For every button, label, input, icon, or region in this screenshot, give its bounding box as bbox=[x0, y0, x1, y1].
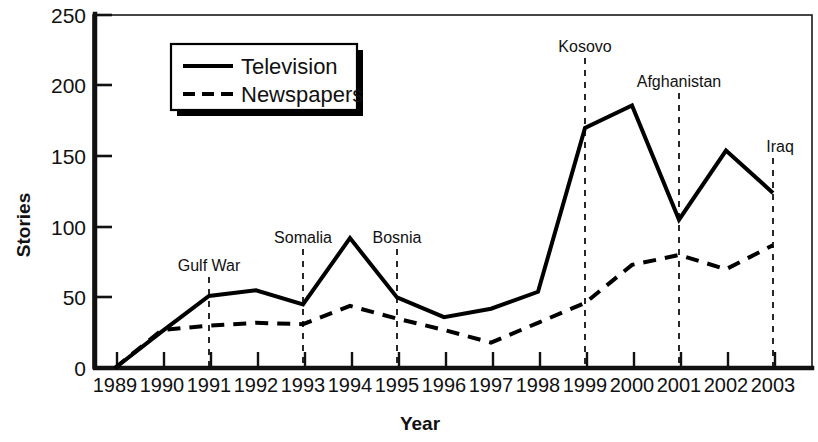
x-tick-label-2001: 2001 bbox=[657, 374, 702, 396]
x-tick-label-2000: 2000 bbox=[610, 374, 655, 396]
y-tick-labels: 250 200 150 100 50 0 bbox=[51, 4, 86, 380]
y-tick-label-200: 200 bbox=[51, 74, 86, 97]
x-tick-label-1999: 1999 bbox=[563, 374, 608, 396]
annotation-label-afghanistan: Afghanistan bbox=[637, 73, 722, 90]
x-tick-labels: 1989 1990 1991 1992 1993 1994 1995 1996 … bbox=[93, 374, 796, 396]
y-tick-label-250: 250 bbox=[51, 4, 86, 27]
legend-label-television: Television bbox=[241, 54, 338, 79]
legend: Television Newspapers bbox=[171, 44, 363, 116]
annotation-label-somalia: Somalia bbox=[274, 229, 332, 246]
annotation-label-gulf-war: Gulf War bbox=[178, 257, 241, 274]
x-tick-label-2002: 2002 bbox=[704, 374, 749, 396]
annotation-label-kosovo: Kosovo bbox=[558, 38, 611, 55]
stories-by-year-line-chart: 250 200 150 100 50 0 Stories bbox=[0, 0, 818, 442]
annotation-label-iraq: Iraq bbox=[766, 138, 794, 155]
x-tick-label-1989: 1989 bbox=[93, 374, 138, 396]
x-tick-label-1994: 1994 bbox=[328, 374, 373, 396]
y-tick-marks bbox=[95, 15, 112, 368]
x-tick-label-1998: 1998 bbox=[516, 374, 561, 396]
legend-label-newspapers: Newspapers bbox=[241, 82, 363, 107]
x-tick-label-1996: 1996 bbox=[422, 374, 467, 396]
y-tick-label-100: 100 bbox=[51, 216, 86, 239]
y-axis-title: Stories bbox=[13, 193, 34, 257]
y-tick-label-150: 150 bbox=[51, 145, 86, 168]
y-tick-label-0: 0 bbox=[74, 357, 86, 380]
chart-container: 250 200 150 100 50 0 Stories bbox=[0, 0, 818, 442]
x-tick-label-2003: 2003 bbox=[751, 374, 796, 396]
annotation-label-bosnia: Bosnia bbox=[373, 229, 422, 246]
x-axis-title: Year bbox=[400, 413, 441, 434]
x-tick-label-1992: 1992 bbox=[234, 374, 279, 396]
series-line-television bbox=[115, 105, 773, 368]
x-tick-label-1993: 1993 bbox=[281, 374, 326, 396]
x-tick-label-1991: 1991 bbox=[187, 374, 232, 396]
x-tick-label-1995: 1995 bbox=[375, 374, 420, 396]
x-tick-label-1990: 1990 bbox=[140, 374, 185, 396]
x-tick-marks bbox=[117, 352, 775, 368]
x-tick-label-1997: 1997 bbox=[469, 374, 514, 396]
y-tick-label-50: 50 bbox=[63, 286, 86, 309]
